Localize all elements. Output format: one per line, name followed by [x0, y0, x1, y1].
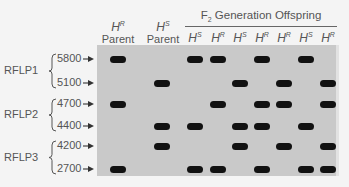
allele-symbol: H [255, 31, 264, 45]
gel-band [154, 123, 170, 130]
allele-symbol: H [111, 20, 120, 34]
title-f: F [201, 9, 208, 21]
size-label: 4400 [57, 119, 81, 131]
lane-header-hr-parent: HR Parent [96, 18, 140, 45]
allele-symbol: H [156, 20, 165, 34]
allele-superscript: R [264, 31, 269, 38]
gel-band [254, 101, 270, 108]
gel-band [232, 143, 248, 150]
parent-label: Parent [141, 33, 185, 45]
lane-header-offspring: HS [184, 29, 206, 44]
arrow-right-icon [83, 123, 94, 129]
lane-header-offspring: HS [295, 29, 317, 44]
rflp-group-label: RFLP2 [4, 108, 38, 120]
size-label: 4200 [57, 139, 81, 151]
size-label: 2700 [57, 162, 81, 174]
gel-band [187, 56, 203, 63]
arrow-right-icon [83, 80, 94, 86]
allele-symbol: H [321, 31, 330, 45]
allele-superscript: S [242, 31, 247, 38]
allele-superscript: S [308, 31, 313, 38]
allele-superscript: R [330, 31, 335, 38]
gel-band [154, 143, 170, 150]
gel-band [320, 166, 336, 173]
allele-symbol: H [188, 31, 197, 45]
rflp-group-label: RFLP3 [4, 151, 38, 163]
gel-band [320, 80, 336, 87]
arrow-right-icon [83, 56, 94, 62]
curly-brace-icon [49, 140, 57, 175]
allele-superscript: R [286, 31, 291, 38]
gel-band [298, 56, 314, 63]
size-label: 4700 [57, 97, 81, 109]
gel-band [210, 101, 226, 108]
gel-band [110, 166, 126, 173]
gel-band [320, 143, 336, 150]
gel-band [187, 166, 203, 173]
gel [97, 45, 337, 176]
title-text: Generation Offspring [212, 9, 322, 21]
lane-header-hs-parent: HS Parent [141, 18, 185, 45]
allele-symbol: H [211, 31, 220, 45]
allele-superscript: R [220, 31, 225, 38]
lane-header-offspring: HR [317, 29, 339, 44]
allele-superscript: R [120, 20, 125, 27]
f2-header-rule [185, 26, 337, 27]
curly-brace-icon [49, 53, 57, 89]
allele-superscript: S [197, 31, 202, 38]
f2-generation-title: F2 Generation Offspring [186, 9, 336, 23]
gel-band [110, 101, 126, 108]
gel-band [210, 166, 226, 173]
gel-band [254, 56, 270, 63]
curly-brace-icon [49, 98, 57, 132]
lane-header-offspring: HR [207, 29, 229, 44]
allele-symbol: H [277, 31, 286, 45]
gel-band [298, 123, 314, 130]
arrow-right-icon [83, 101, 94, 107]
gel-band [232, 123, 248, 130]
allele-symbol: H [299, 31, 308, 45]
size-label: 5800 [57, 52, 81, 64]
gel-band [320, 101, 336, 108]
allele-symbol: H [233, 31, 242, 45]
gel-band [276, 80, 292, 87]
gel-band [254, 123, 270, 130]
allele-superscript: S [165, 20, 170, 27]
gel-band [298, 166, 314, 173]
gel-band [110, 56, 126, 63]
size-label: 5100 [57, 76, 81, 88]
gel-band [210, 56, 226, 63]
arrow-right-icon [83, 143, 94, 149]
lane-header-offspring: HS [229, 29, 251, 44]
lane-header-offspring: HR [273, 29, 295, 44]
gel-band [254, 166, 270, 173]
gel-band [276, 143, 292, 150]
gel-band [276, 101, 292, 108]
gel-edge [336, 45, 339, 176]
lane-header-offspring: HR [251, 29, 273, 44]
arrow-right-icon [83, 166, 94, 172]
gel-band [232, 80, 248, 87]
parent-label: Parent [96, 33, 140, 45]
gel-band [187, 123, 203, 130]
rflp-group-label: RFLP1 [4, 64, 38, 76]
gel-band [154, 80, 170, 87]
